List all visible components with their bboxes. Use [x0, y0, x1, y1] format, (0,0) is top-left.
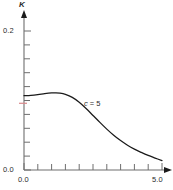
y-axis-tick-label-min: 0.0	[3, 166, 14, 174]
x-axis-tick-label-min: 0.0	[18, 176, 29, 184]
y-axis-label: K	[19, 1, 25, 9]
x-axis-tick-label-max: 5.0	[152, 176, 163, 184]
chart-plot-area	[0, 0, 173, 190]
chart-figure: 0.2 0.0 0.0 5.0 K c = 5	[0, 0, 173, 190]
x-axis-ticks	[24, 163, 162, 170]
y-axis-ticks	[24, 31, 31, 170]
y-axis-arrow-icon	[21, 10, 27, 18]
y-axis-tick-label-max: 0.2	[3, 27, 14, 35]
series-annotation-c-equals-5: c = 5	[84, 100, 100, 108]
x-axis-arrow-icon	[164, 167, 172, 173]
